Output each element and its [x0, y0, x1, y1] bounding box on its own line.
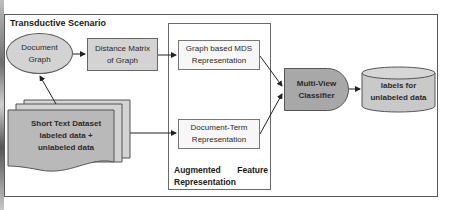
- graph-mds-node: Graph based MDS Representation: [178, 40, 260, 70]
- short-text-dataset-label: Short Text Dataset labeled data + unlabe…: [12, 118, 120, 154]
- arrow-docterm-to-classifier: [260, 94, 282, 134]
- graph-mds-label: Graph based MDS Representation: [186, 43, 252, 67]
- arrow-mds-to-classifier: [260, 56, 282, 86]
- labels-output-label: labels for unlabeled data: [362, 80, 435, 104]
- diagram-shapes-and-arrows: [0, 0, 451, 210]
- distance-matrix-label: Distance Matrix of Graph: [95, 43, 150, 67]
- document-graph-label: Document Graph: [21, 42, 57, 66]
- distance-matrix-node: Distance Matrix of Graph: [87, 38, 158, 71]
- document-term-label: Document-Term Representation: [191, 122, 248, 146]
- document-term-node: Document-Term Representation: [178, 119, 260, 149]
- classifier-label: Multi-View Classifier: [297, 78, 336, 102]
- document-graph-node: Document Graph: [6, 33, 73, 74]
- multi-view-classifier-node: Multi-View Classifier: [284, 68, 349, 111]
